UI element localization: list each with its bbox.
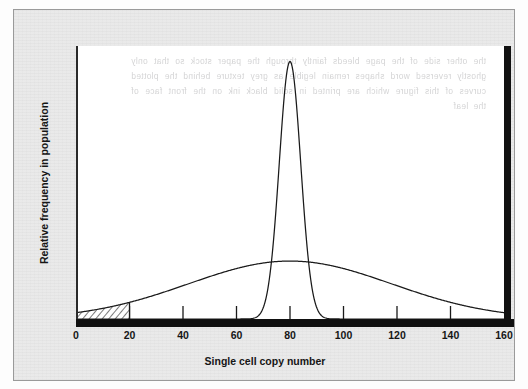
x-tick-label: 60	[231, 329, 243, 341]
x-tick-label: 160	[495, 329, 513, 341]
x-tick-label: 80	[284, 329, 296, 341]
y-axis-title: Relative frequency in population	[38, 46, 52, 320]
x-axis-title: Single cell copy number	[14, 355, 515, 367]
x-tick-label: 0	[73, 329, 79, 341]
plot-right-border	[504, 46, 511, 327]
figure-root: the other side of the page bleeds faintl…	[0, 0, 528, 389]
plot-area: the other side of the page bleeds faintl…	[76, 46, 504, 319]
x-tick-label: 20	[124, 329, 136, 341]
figure-panel: the other side of the page bleeds faintl…	[13, 9, 515, 381]
x-tick-label: 40	[177, 329, 189, 341]
x-axis-bar	[76, 319, 515, 327]
x-axis-tick-labels: 020406080100120140160	[14, 329, 515, 345]
x-tick-marks	[130, 306, 451, 319]
curve-broad-distribution	[76, 261, 504, 313]
y-axis-line	[76, 46, 78, 320]
curve-narrow-distribution	[76, 61, 504, 319]
x-tick-label: 120	[388, 329, 406, 341]
plot-canvas	[76, 46, 504, 319]
x-tick-label: 140	[442, 329, 460, 341]
x-tick-label: 100	[335, 329, 353, 341]
